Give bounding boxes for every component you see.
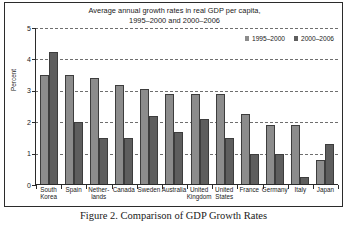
- category-label-line: Australia: [161, 187, 186, 194]
- category-label-line: Sweden: [136, 187, 161, 194]
- bar-1: [266, 125, 275, 185]
- category-label-10: Germany: [262, 187, 288, 201]
- bar-2: [174, 132, 183, 185]
- category-label-2: Spain: [61, 187, 86, 201]
- y-tick-label: 2: [19, 119, 31, 126]
- chart-title: Average annual growth rates in real GDP …: [5, 6, 344, 25]
- category-label-9: France: [237, 187, 262, 201]
- bars-layer: [36, 28, 338, 185]
- bar-2: [275, 154, 284, 185]
- category-label-8: UnitedStates: [212, 187, 237, 201]
- bar-1: [241, 114, 250, 185]
- x-tick-mark: [338, 185, 339, 189]
- category-label-line: Canada: [111, 187, 136, 194]
- category-label-line: lands: [86, 194, 111, 201]
- plot-area: 012345 Percent: [35, 28, 338, 185]
- y-tick-label: 0: [19, 182, 31, 189]
- screenshot-root: Average annual growth rates in real GDP …: [0, 0, 347, 225]
- bar-1: [115, 85, 124, 185]
- category-label-line: States: [212, 194, 237, 201]
- category-label-line: Japan: [313, 187, 338, 194]
- bar-1: [316, 160, 325, 185]
- figure-caption: Figure 2. Comparison of GDP Growth Rates: [0, 210, 347, 221]
- category-label-line: Spain: [61, 187, 86, 194]
- category-label-6: Australia: [161, 187, 186, 201]
- category-label-line: France: [237, 187, 262, 194]
- category-label-1: SouthKorea: [36, 187, 61, 201]
- category-label-line: Korea: [36, 194, 61, 201]
- bar-group: [36, 28, 61, 185]
- y-tick-label: 1: [19, 150, 31, 157]
- category-label-4: Canada: [111, 187, 136, 201]
- y-tick-label: 4: [19, 56, 31, 63]
- category-label-7: UnitedKingdom: [187, 187, 212, 201]
- bar-1: [291, 125, 300, 185]
- category-label-line: Italy: [288, 187, 313, 194]
- bar-1: [65, 75, 74, 185]
- bar-2: [250, 154, 259, 185]
- bar-1: [191, 94, 200, 185]
- bar-group: [313, 28, 338, 185]
- category-label-3: Nether-lands: [86, 187, 111, 201]
- y-axis-title: Percent: [10, 69, 17, 91]
- bar-2: [149, 116, 158, 185]
- category-labels: SouthKoreaSpainNether-landsCanadaSwedenA…: [36, 187, 338, 201]
- chart-frame: Average annual growth rates in real GDP …: [4, 2, 343, 207]
- bar-group: [112, 28, 137, 185]
- bar-1: [90, 78, 99, 185]
- bar-2: [325, 144, 334, 185]
- chart-title-line-1: Average annual growth rates in real GDP …: [5, 6, 344, 16]
- bar-2: [124, 138, 133, 185]
- y-tick-label: 3: [19, 87, 31, 94]
- category-label-line: Kingdom: [187, 194, 212, 201]
- bar-1: [216, 94, 225, 185]
- bar-group: [187, 28, 212, 185]
- category-label-line: Germany: [262, 187, 288, 194]
- category-label-11: Italy: [288, 187, 313, 201]
- bar-group: [263, 28, 288, 185]
- bar-1: [165, 94, 174, 185]
- y-tick-label: 5: [19, 25, 31, 32]
- bar-group: [162, 28, 187, 185]
- bar-2: [49, 52, 58, 185]
- bar-2: [200, 119, 209, 185]
- bar-2: [74, 122, 83, 185]
- category-label-5: Sweden: [136, 187, 161, 201]
- bar-group: [86, 28, 111, 185]
- bar-2: [99, 138, 108, 185]
- bar-group: [237, 28, 262, 185]
- bar-group: [137, 28, 162, 185]
- bar-group: [288, 28, 313, 185]
- bar-1: [40, 75, 49, 185]
- chart-title-line-2: 1995–2000 and 2000–2006: [5, 16, 344, 26]
- category-label-12: Japan: [313, 187, 338, 201]
- bar-group: [212, 28, 237, 185]
- bar-2: [225, 138, 234, 185]
- bar-group: [61, 28, 86, 185]
- bar-1: [140, 89, 149, 185]
